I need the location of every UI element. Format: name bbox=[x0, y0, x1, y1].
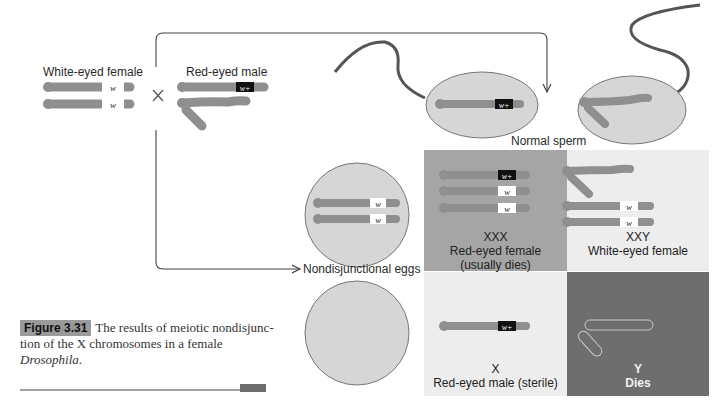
caption-text-1: The results of meiotic nondisjunc- bbox=[95, 320, 273, 335]
svg-text:w: w bbox=[626, 202, 632, 212]
svg-text:w+: w+ bbox=[499, 101, 510, 110]
genotype-x: X bbox=[424, 362, 567, 376]
svg-text:w: w bbox=[110, 100, 116, 110]
male-parent-chromosomes: w+ bbox=[177, 82, 264, 126]
svg-text:w: w bbox=[504, 187, 510, 197]
genotype-xxy: XXY bbox=[567, 230, 709, 244]
egg-xx: w w bbox=[305, 163, 409, 267]
x-chromosome: w+ bbox=[439, 321, 526, 332]
svg-text:w+: w+ bbox=[240, 84, 251, 93]
female-to-eggs-arrow bbox=[156, 130, 300, 269]
xxx-chromosomes: w+ w w bbox=[439, 170, 526, 214]
cross-symbol-icon bbox=[153, 90, 163, 101]
male-parent-label: Red-eyed male bbox=[186, 65, 267, 79]
caption-species: Drosophila bbox=[20, 352, 79, 367]
svg-text:w: w bbox=[626, 218, 632, 228]
svg-text:w: w bbox=[110, 83, 116, 93]
note-xxx: (usually dies) bbox=[424, 258, 567, 272]
svg-text:w: w bbox=[375, 215, 381, 225]
phenotype-y: Dies bbox=[567, 376, 709, 390]
phenotype-x: Red-eyed male (sterile) bbox=[424, 376, 567, 390]
sperm-x: w+ bbox=[335, 42, 538, 138]
female-parent-label: White-eyed female bbox=[43, 65, 143, 79]
caption-line-3: Drosophila. bbox=[20, 352, 280, 368]
phenotype-xxy: White-eyed female bbox=[567, 244, 709, 258]
figure-number-tag: Figure 3.31 bbox=[20, 320, 91, 336]
box-xxy-text: XXY White-eyed female bbox=[567, 230, 709, 260]
caption-line-2: tion of the X chromosomes in a female bbox=[20, 336, 280, 352]
female-parent-chromosomes: w w bbox=[43, 82, 130, 110]
figure-caption: Figure 3.31The results of meiotic nondis… bbox=[20, 320, 280, 368]
genotype-xxx: XXX bbox=[424, 230, 567, 244]
box-xxx-text: XXX Red-eyed female (usually dies) bbox=[424, 230, 567, 270]
eggs-label: Nondisjunctional eggs bbox=[303, 262, 420, 276]
svg-text:w: w bbox=[375, 199, 381, 209]
svg-text:w+: w+ bbox=[502, 172, 513, 181]
genotype-y: Y bbox=[567, 362, 709, 376]
sperm-label: Normal sperm bbox=[511, 134, 586, 148]
svg-text:w: w bbox=[504, 204, 510, 214]
box-y-text: Y Dies bbox=[567, 362, 709, 392]
svg-text:w+: w+ bbox=[502, 323, 513, 332]
phenotype-xxx: Red-eyed female bbox=[424, 244, 567, 258]
caption-period: . bbox=[79, 352, 82, 367]
egg-empty bbox=[305, 281, 409, 385]
caption-rule-tab bbox=[240, 384, 266, 392]
sperm-y bbox=[578, 5, 700, 144]
box-x-text: X Red-eyed male (sterile) bbox=[424, 362, 567, 392]
caption-line-1: Figure 3.31The results of meiotic nondis… bbox=[20, 320, 280, 336]
